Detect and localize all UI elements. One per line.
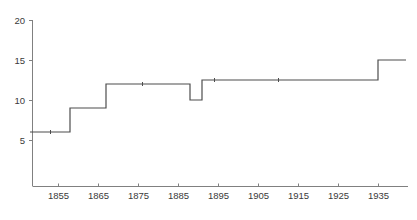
y-axis-tick-label: 5 — [20, 135, 25, 146]
y-axis-tick-label: 20 — [14, 15, 25, 26]
x-axis-tick-label: 1865 — [88, 190, 109, 201]
x-axis-tick-label: 1895 — [208, 190, 229, 201]
x-axis-tick-label: 1935 — [368, 190, 389, 201]
x-axis-tick-label: 1885 — [168, 190, 189, 201]
y-axis-tick-label: 10 — [14, 95, 25, 106]
x-axis-tick-label: 1905 — [248, 190, 269, 201]
x-axis-tick-label: 1855 — [48, 190, 69, 201]
x-axis-tick-label: 1875 — [128, 190, 149, 201]
data-step-line — [30, 60, 406, 132]
chart-plot-area: 5101520185518651875188518951905191519251… — [0, 0, 417, 220]
x-axis-tick-label: 1925 — [328, 190, 349, 201]
x-axis-tick-label: 1915 — [288, 190, 309, 201]
y-axis-tick-label: 15 — [14, 55, 25, 66]
step-chart: 5101520185518651875188518951905191519251… — [0, 0, 417, 220]
